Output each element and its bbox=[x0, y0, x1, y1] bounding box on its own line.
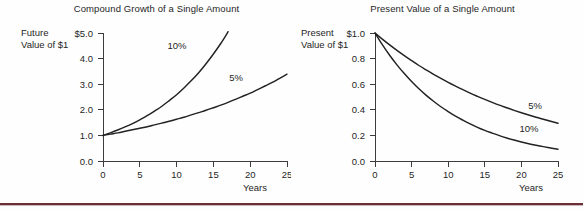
y-tick-label: 0.0 bbox=[80, 156, 93, 167]
curve-annotation-5-percent: 5% bbox=[229, 72, 243, 83]
y-tick-label: 0.8 bbox=[352, 53, 365, 64]
curve-10-percent bbox=[103, 32, 228, 136]
y-tick-label: 4.0 bbox=[80, 53, 93, 64]
x-tick-marks bbox=[103, 161, 287, 167]
horizontal-divider-shadow bbox=[0, 205, 583, 206]
curve-annotation-10-percent: 10% bbox=[167, 40, 187, 51]
y-tick-label: 0.0 bbox=[352, 156, 365, 167]
curve-annotation-10-percent: 10% bbox=[519, 123, 539, 134]
chart-panel-present-value: Present Value of a Single Amount Present… bbox=[291, 0, 582, 200]
y-tick-label: 0.4 bbox=[352, 104, 365, 115]
x-tick-label: 25 bbox=[553, 169, 564, 180]
y-tick-label: $5.0 bbox=[75, 28, 94, 39]
y-tick-label: 1.0 bbox=[80, 130, 93, 141]
y-tick-label: 0.6 bbox=[352, 79, 365, 90]
x-tick-label: 10 bbox=[443, 169, 454, 180]
plot-area-compound-growth: $5.0 4.0 3.0 2.0 1.0 0.0 0 5 10 15 20 25… bbox=[0, 0, 291, 200]
x-tick-label: 15 bbox=[480, 169, 491, 180]
curve-5-percent bbox=[103, 74, 287, 135]
y-tick-label: 0.2 bbox=[352, 130, 365, 141]
y-tick-marks bbox=[370, 33, 376, 161]
x-tick-label: 20 bbox=[245, 169, 256, 180]
y-tick-label: 2.0 bbox=[80, 104, 93, 115]
chart-panel-compound-growth: Compound Growth of a Single Amount Futur… bbox=[0, 0, 291, 200]
x-tick-label: 0 bbox=[100, 169, 105, 180]
y-tick-label: 3.0 bbox=[80, 79, 93, 90]
curve-annotation-5-percent: 5% bbox=[528, 100, 542, 111]
y-tick-labels: $5.0 4.0 3.0 2.0 1.0 0.0 bbox=[75, 28, 94, 167]
x-tick-label: 5 bbox=[409, 169, 414, 180]
x-tick-marks bbox=[375, 161, 558, 167]
figure-canvas: Compound Growth of a Single Amount Futur… bbox=[0, 0, 583, 213]
x-tick-label: 20 bbox=[516, 169, 527, 180]
x-tick-labels: 0 5 10 15 20 25 bbox=[100, 169, 291, 180]
axis-lines bbox=[375, 33, 558, 161]
y-tick-marks bbox=[98, 33, 104, 161]
x-tick-label: 15 bbox=[208, 169, 219, 180]
plot-area-present-value: $1.0 0.8 0.6 0.4 0.2 0.0 0 5 10 15 20 25… bbox=[291, 0, 582, 200]
axis-lines bbox=[103, 33, 287, 161]
y-tick-label: $1.0 bbox=[347, 28, 366, 39]
x-tick-labels: 0 5 10 15 20 25 bbox=[372, 169, 563, 180]
x-tick-label: 25 bbox=[282, 169, 291, 180]
y-tick-labels: $1.0 0.8 0.6 0.4 0.2 0.0 bbox=[347, 28, 366, 167]
x-tick-label: 0 bbox=[372, 169, 377, 180]
x-tick-label: 10 bbox=[171, 169, 182, 180]
x-tick-label: 5 bbox=[137, 169, 142, 180]
